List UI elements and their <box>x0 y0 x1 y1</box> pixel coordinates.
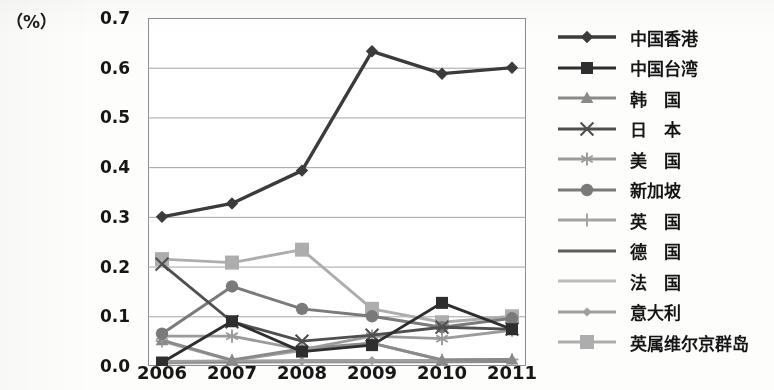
legend-item-label: 新加坡 <box>630 177 681 202</box>
y-tick-0.7: 0.7 <box>78 8 130 28</box>
y-tick-0.0: 0.0 <box>78 356 130 376</box>
y-tick-0.6: 0.6 <box>78 58 130 78</box>
legend-item-label: 中国香港 <box>630 25 698 50</box>
legend-item-9[interactable]: 意大利 <box>556 297 774 328</box>
legend-item-label: 意大利 <box>630 299 681 324</box>
plot-area <box>148 18 526 366</box>
legend-marker-icon <box>556 146 618 172</box>
legend-item-label: 韩 国 <box>630 86 681 111</box>
legend-marker-icon <box>556 268 618 294</box>
legend-item-label: 中国台湾 <box>630 55 698 80</box>
legend-item-6[interactable]: 英 国 <box>556 205 774 236</box>
legend-marker-icon <box>556 329 618 355</box>
legend-item-label: 德 国 <box>630 238 681 263</box>
legend-marker-icon <box>556 299 618 325</box>
legend-item-8[interactable]: 法 国 <box>556 266 774 297</box>
legend-item-label: 英属维尔京群岛 <box>630 330 749 355</box>
chart-legend: 中国香港中国台湾韩 国日 本美 国新加坡英 国德 国法 国意大利英属维尔京群岛 <box>556 22 774 358</box>
y-tick-0.1: 0.1 <box>78 306 130 326</box>
legend-item-label: 美 国 <box>630 147 681 172</box>
legend-marker-icon <box>556 207 618 233</box>
y-tick-0.2: 0.2 <box>78 257 130 277</box>
legend-marker-icon <box>556 238 618 264</box>
y-tick-0.4: 0.4 <box>78 157 130 177</box>
legend-marker-icon <box>556 116 618 142</box>
legend-item-3[interactable]: 日 本 <box>556 114 774 145</box>
legend-marker-icon <box>556 24 618 50</box>
legend-item-2[interactable]: 韩 国 <box>556 83 774 114</box>
legend-item-0[interactable]: 中国香港 <box>556 22 774 53</box>
legend-item-7[interactable]: 德 国 <box>556 236 774 267</box>
legend-marker-icon <box>556 55 618 81</box>
legend-item-4[interactable]: 美 国 <box>556 144 774 175</box>
plot-svg <box>148 18 526 366</box>
legend-item-label: 日 本 <box>630 116 681 141</box>
line-chart: （%） 0.70.60.50.40.30.20.10.0 20062007200… <box>0 0 774 390</box>
legend-item-1[interactable]: 中国台湾 <box>556 53 774 84</box>
y-tick-0.5: 0.5 <box>78 107 130 127</box>
legend-item-5[interactable]: 新加坡 <box>556 175 774 206</box>
legend-item-10[interactable]: 英属维尔京群岛 <box>556 327 774 358</box>
legend-marker-icon <box>556 177 618 203</box>
legend-item-label: 法 国 <box>630 269 681 294</box>
y-axis-unit-label: （%） <box>6 8 57 33</box>
y-tick-0.3: 0.3 <box>78 207 130 227</box>
legend-item-label: 英 国 <box>630 208 681 233</box>
legend-marker-icon <box>556 85 618 111</box>
